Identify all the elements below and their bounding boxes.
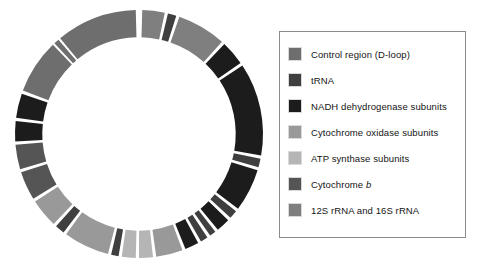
legend-swatch-cytochrome-b xyxy=(288,177,302,191)
legend-label: Cytochrome b xyxy=(311,179,371,190)
genome-circular-map xyxy=(8,4,270,264)
legend-swatch-atp-synthase xyxy=(288,151,302,165)
legend-swatch-rrna xyxy=(288,203,302,217)
legend-item: Control region (D-loop) xyxy=(288,41,465,67)
mitochondrial-genome-figure: Control region (D-loop)tRNANADH dehydrog… xyxy=(0,0,490,267)
genome-segment xyxy=(142,10,165,39)
legend-label: NADH dehydrogenase subunits xyxy=(311,101,447,112)
genome-segment xyxy=(15,121,43,142)
genome-segment xyxy=(60,10,136,59)
legend-item: ATP synthase subunits xyxy=(288,145,465,171)
legend-list: Control region (D-loop)tRNANADH dehydrog… xyxy=(280,32,465,237)
legend-item: Cytochrome oxidase subunits xyxy=(288,119,465,145)
legend-item: Cytochrome b xyxy=(288,171,465,197)
legend-label: ATP synthase subunits xyxy=(311,153,409,164)
genome-segment xyxy=(220,66,263,156)
legend-item: tRNA xyxy=(288,67,465,93)
legend-swatch-trna xyxy=(288,73,302,87)
legend-label-italic: b xyxy=(366,179,371,190)
legend-label: 12S rRNA and 16S rRNA xyxy=(311,205,419,216)
legend-item: 12S rRNA and 16S rRNA xyxy=(288,197,465,223)
legend-label: tRNA xyxy=(311,75,334,86)
legend-label: Control region (D-loop) xyxy=(311,49,410,60)
legend-swatch-control-region xyxy=(288,47,302,61)
genome-segment xyxy=(139,230,153,258)
legend-swatch-cytochrome-oxidase xyxy=(288,125,302,139)
legend-panel: Control region (D-loop)tRNANADH dehydrog… xyxy=(279,31,466,238)
genome-ring-svg xyxy=(8,4,270,264)
genome-segment xyxy=(122,230,137,258)
genome-segment xyxy=(15,142,46,169)
legend-item: NADH dehydrogenase subunits xyxy=(288,93,465,119)
legend-label: Cytochrome oxidase subunits xyxy=(311,127,438,138)
legend-swatch-nadh xyxy=(288,99,302,113)
